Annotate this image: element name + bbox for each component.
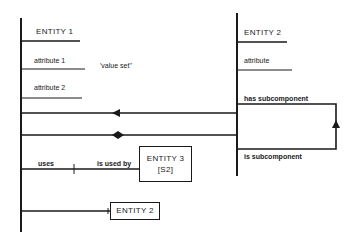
entity3-box: ENTITY 3 [S2] [139, 146, 192, 182]
entity2-box: ENTITY 2 [110, 202, 160, 220]
entity2-attribute: attribute [244, 57, 269, 64]
entity1-attribute-1: attribute 1 [34, 57, 65, 64]
is-used-by-label: is used by [97, 160, 131, 167]
is-subcomponent-label: is subcomponent [244, 153, 302, 160]
value-set-annotation: 'value set'' [100, 62, 132, 69]
entity2-box-title: ENTITY 2 [116, 205, 153, 216]
entity1-title: ENTITY 1 [36, 28, 73, 36]
diagram-lines [0, 0, 354, 247]
entity3-title: ENTITY 3 [147, 153, 184, 164]
entity3-subtitle: [S2] [158, 164, 173, 175]
uses-label: uses [38, 160, 54, 167]
entity1-attribute-2: attribute 2 [34, 84, 65, 91]
diamond-icon [112, 131, 124, 139]
arrowhead-left-icon [112, 109, 120, 117]
arrowhead-up-icon [332, 120, 340, 128]
entity2-title: ENTITY 2 [244, 29, 281, 37]
has-subcomponent-label: has subcomponent [244, 95, 308, 102]
